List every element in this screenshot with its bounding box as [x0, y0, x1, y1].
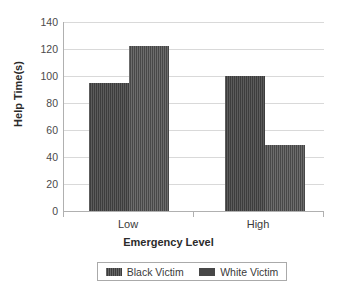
x-axis-tick: [193, 212, 194, 217]
y-axis-tick-label: 120: [22, 43, 58, 55]
bar-high-black-victim: [225, 76, 265, 211]
chart-legend: Black Victim White Victim: [97, 262, 287, 281]
y-axis-tick-label: 60: [22, 124, 58, 136]
legend-item-black-victim: Black Victim: [106, 266, 184, 278]
x-axis-tick: [63, 212, 64, 217]
bar-low-black-victim: [89, 83, 129, 211]
gridline: [64, 76, 324, 77]
legend-swatch-icon: [199, 268, 215, 276]
x-axis-tick: [323, 212, 324, 217]
y-axis-tick-label: 140: [22, 16, 58, 28]
gridline: [64, 22, 324, 23]
y-axis-tick-label: 100: [22, 70, 58, 82]
gridline: [64, 49, 324, 50]
x-axis-category-label-low: Low: [118, 218, 138, 230]
y-axis-tick-label: 80: [22, 97, 58, 109]
y-axis-tick-label: 0: [22, 205, 58, 217]
legend-label: White Victim: [220, 266, 278, 278]
plot-area: [63, 22, 324, 212]
legend-swatch-icon: [106, 268, 122, 276]
legend-item-white-victim: White Victim: [199, 266, 278, 278]
x-axis-category-label-high: High: [247, 218, 270, 230]
x-axis-title: Emergency Level: [0, 236, 337, 248]
bar-chart-figure: Help Time(s) 140 120 100 80 60 40 20 0 L…: [0, 0, 337, 293]
bar-high-white-victim: [265, 145, 305, 211]
y-axis-tick-label: 20: [22, 178, 58, 190]
bar-low-white-victim: [129, 46, 169, 211]
legend-label: Black Victim: [127, 266, 184, 278]
y-axis-tick-label: 40: [22, 151, 58, 163]
